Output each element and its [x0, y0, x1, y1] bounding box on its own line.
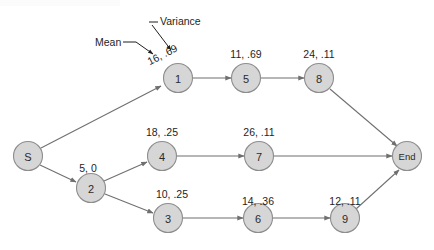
node-8[interactable]: 8	[305, 64, 334, 93]
node-S[interactable]: S	[14, 142, 43, 171]
node-9-label: 9	[342, 213, 348, 225]
edge-label-S-2: 5, 0	[79, 162, 97, 174]
edge-label-6-9: 12, .11	[329, 195, 360, 207]
node-2-label: 2	[88, 183, 94, 195]
node-3[interactable]: 3	[154, 204, 183, 233]
mean-leader-arrow	[136, 42, 153, 54]
node-4-label: 4	[159, 151, 165, 163]
node-1[interactable]: 1	[164, 64, 193, 93]
node-7-label: 7	[256, 151, 262, 163]
node-2[interactable]: 2	[77, 174, 106, 203]
node-5-label: 5	[243, 73, 249, 85]
node-6[interactable]: 6	[244, 204, 273, 233]
network-diagram: S 1 5 8 2 4	[0, 0, 434, 250]
node-8-label: 8	[316, 73, 322, 85]
edge-label-4-7: 26, .11	[243, 126, 274, 138]
node-S-label: S	[24, 151, 31, 163]
node-4[interactable]: 4	[148, 142, 177, 171]
node-6-label: 6	[255, 213, 261, 225]
annotation-mean-label: Mean	[95, 36, 121, 48]
node-1-label: 1	[175, 73, 181, 85]
edge-label-2-3: 10, .25	[156, 188, 188, 200]
edge-S-2	[40, 165, 76, 182]
edge-9-End	[356, 170, 399, 209]
edge-label-S-1: 16, .69	[145, 42, 179, 67]
edge-label-3-6: 14, .36	[242, 195, 274, 207]
node-3-label: 3	[165, 213, 171, 225]
edge-label-1-5: 11, .69	[230, 48, 261, 60]
edge-8-End	[330, 89, 397, 146]
node-End[interactable]: End	[393, 142, 422, 171]
edge-label-5-8: 24, .11	[303, 48, 334, 60]
node-9[interactable]: 9	[331, 204, 360, 233]
annotations-layer: Mean Variance	[95, 15, 201, 54]
edge-2-4	[104, 162, 147, 181]
edge-S-1	[41, 86, 161, 148]
edge-2-3	[105, 194, 153, 213]
network-svg: S 1 5 8 2 4	[0, 0, 434, 250]
node-5[interactable]: 5	[232, 64, 261, 93]
annotation-variance-label: Variance	[160, 15, 201, 27]
nodes-layer: S 1 5 8 2 4	[14, 64, 422, 233]
variance-leader-arrow	[152, 25, 171, 50]
node-End-label: End	[399, 151, 416, 162]
node-7[interactable]: 7	[245, 142, 274, 171]
edge-label-2-4: 18, .25	[146, 126, 178, 138]
